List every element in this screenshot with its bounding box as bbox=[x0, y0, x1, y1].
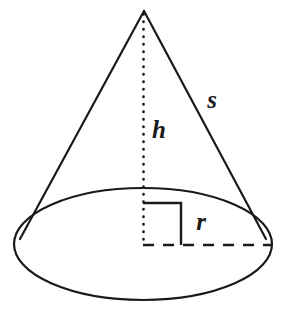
cone-figure: s h r bbox=[0, 0, 282, 318]
radius-label: r bbox=[196, 208, 206, 235]
cone-diagram-svg: s h r bbox=[0, 0, 282, 318]
left-slant-line bbox=[20, 11, 144, 239]
height-label: h bbox=[152, 116, 166, 143]
right-angle-marker bbox=[143, 203, 181, 245]
slant-height-label: s bbox=[206, 86, 217, 113]
